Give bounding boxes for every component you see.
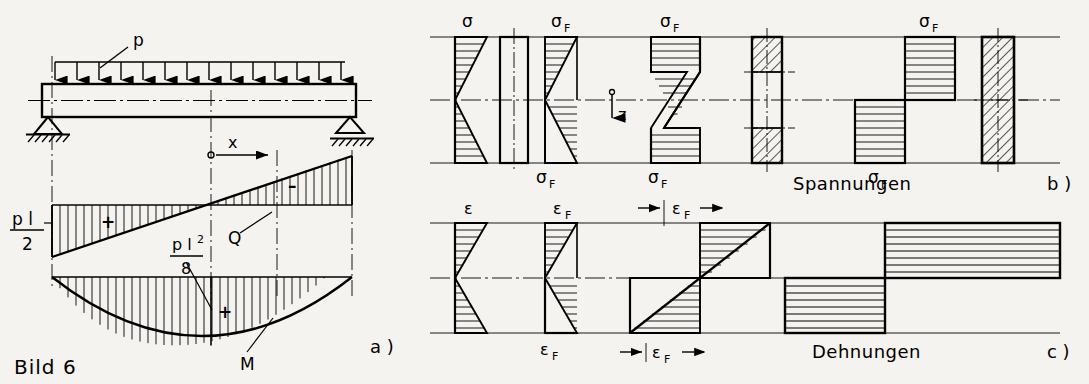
panel-c-strain-diagrams: ε ε (430, 199, 1070, 366)
stress-stage-yield-onset: σ F σ F (536, 11, 577, 191)
strain-label-3-bottom-sub: F (664, 353, 670, 366)
load-arrows (55, 62, 341, 80)
shear-plus-sign: + (101, 212, 115, 232)
moment-parabola (52, 277, 352, 336)
stress-stage-elastic-plastic: σ F σ F (648, 11, 700, 191)
stress-label-1: σ (462, 11, 473, 31)
strain-label-1: ε (464, 199, 473, 218)
x-axis-marker: x (208, 133, 268, 158)
moment-exponent: 2 (197, 233, 204, 246)
moment-numerator: p l (172, 235, 192, 254)
stress-label-3-bottom: σ (648, 167, 659, 187)
support-pin-left (26, 117, 70, 142)
figure-root: p (0, 0, 1089, 384)
shear-label-leader (240, 212, 272, 233)
strain-hatch-2 (545, 230, 577, 328)
strain-label-2-bottom: ε (540, 340, 549, 359)
reaction-numerator: p l (12, 209, 33, 229)
z-axis-marker: z (610, 90, 627, 125)
figure-canvas: p (0, 0, 1089, 384)
strain-stage-elastic-plastic: ε F ε F (620, 199, 770, 366)
shear-label: Q (228, 228, 241, 248)
reaction-denominator: 2 (22, 234, 33, 254)
panel-b-stress-diagrams: σ (430, 11, 1071, 194)
moment-plus-sign: + (218, 302, 232, 322)
strain-label-3-top-sub: F (684, 209, 690, 222)
strain-stage-yield-onset: ε F ε F (540, 199, 577, 363)
moment-value-leader (186, 262, 212, 310)
stress-block-bottom (855, 100, 905, 163)
strain-label-3-top: ε (672, 199, 681, 218)
x-axis-label: x (228, 133, 237, 152)
strain-stage-elastic: ε (455, 199, 487, 333)
panel-a-marker: a ) (370, 336, 394, 357)
strain-label-2-top-sub: F (565, 209, 571, 222)
panel-c-marker: c ) (1047, 341, 1070, 362)
load-label-leader (100, 47, 128, 68)
support-roller-right (330, 117, 374, 146)
stress-label-4-top: σ (919, 11, 930, 31)
stress-label-2-top: σ (551, 11, 562, 31)
strain-hatch-1 (455, 230, 484, 328)
z-axis-label: z (618, 105, 626, 124)
strain-label-2-bottom-sub: F (552, 350, 558, 363)
z-origin-dot (610, 90, 615, 95)
stress-reference-rules (430, 37, 1060, 163)
stresses-title: Spannungen (793, 173, 911, 194)
stress-stage-elastic: σ (455, 11, 487, 163)
stress-label-4-top-sub: F (932, 22, 938, 35)
reaction-value: p l 2 (10, 209, 52, 254)
figure-caption: Bild 6 (14, 355, 77, 379)
max-moment-value: p l 2 8 (170, 233, 212, 310)
strains-title: Dehnungen (812, 341, 921, 362)
stress-label-2-top-sub: F (564, 22, 570, 35)
stress-stage-fully-plastic: σ F σ F (855, 11, 955, 191)
stress-label-3-bottom-sub: F (661, 178, 667, 191)
stress-label-2-bottom: σ (536, 167, 547, 187)
stress-block-top (905, 37, 955, 100)
stress-label-3-top-sub: F (673, 22, 679, 35)
construction-lines (52, 56, 352, 300)
shear-minus-sign: – (288, 176, 297, 196)
panel-b-marker: b ) (1047, 173, 1071, 194)
stress-label-2-bottom-sub: F (549, 178, 555, 191)
load-label: p (133, 30, 144, 50)
strain-stage-fully-plastic (785, 223, 1060, 333)
panel-a-beam-diagram: p (10, 30, 394, 374)
strain-label-3-bottom: ε (652, 343, 661, 362)
stress-label-3-top: σ (660, 11, 671, 31)
strain-label-2-top: ε (553, 199, 562, 218)
cross-section-fully-plastic (974, 28, 1028, 172)
strain-dimension-bottom (620, 343, 704, 362)
moment-label: M (240, 354, 255, 374)
